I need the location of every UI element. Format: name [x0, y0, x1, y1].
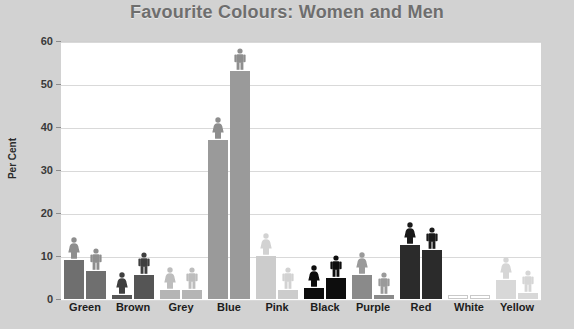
bar-holder: [230, 71, 250, 299]
bar-group-white: [445, 41, 493, 299]
man-figure-icon: [522, 270, 534, 292]
bar-purple-men[interactable]: [374, 41, 394, 299]
bar-holder: [400, 245, 420, 299]
bar-rect: [400, 245, 420, 299]
bar-rect: [448, 295, 468, 299]
bar-red-women[interactable]: [400, 41, 420, 299]
x-tick-label-brown: Brown: [109, 301, 157, 313]
woman-figure-icon: [116, 272, 129, 294]
y-tick-label-40: 40: [41, 121, 53, 133]
bar-black-women[interactable]: [304, 41, 324, 299]
bar-rect: [134, 275, 154, 299]
woman-figure-icon: [356, 252, 369, 274]
man-figure-icon: [378, 272, 390, 294]
man-figure-icon: [90, 248, 102, 270]
man-figure-icon: [474, 272, 486, 294]
bar-rect: [422, 250, 442, 299]
bar-group-pink: [253, 41, 301, 299]
x-tick-label-red: Red: [397, 301, 445, 313]
y-axis: Per Cent 0102030405060: [0, 41, 61, 299]
bar-rect: [326, 278, 346, 300]
y-tick-label-20: 20: [41, 207, 53, 219]
bar-holder: [86, 271, 106, 299]
man-figure-icon: [330, 255, 342, 277]
y-tick-label-30: 30: [41, 164, 53, 176]
bar-holder: [352, 275, 372, 299]
bar-grey-women[interactable]: [160, 41, 180, 299]
bar-yellow-men[interactable]: [518, 41, 538, 299]
woman-figure-icon: [68, 237, 81, 259]
x-tick-label-green: Green: [61, 301, 109, 313]
bar-group-black: [301, 41, 349, 299]
bar-rect: [160, 290, 180, 299]
woman-figure-icon: [452, 272, 465, 294]
bar-white-men[interactable]: [470, 41, 490, 299]
bar-green-men[interactable]: [86, 41, 106, 299]
bar-group-red: [397, 41, 445, 299]
bar-rect: [230, 71, 250, 299]
bar-rect: [112, 295, 132, 299]
bar-rect: [352, 275, 372, 299]
bar-group-brown: [109, 41, 157, 299]
bar-pink-men[interactable]: [278, 41, 298, 299]
bar-holder: [64, 260, 84, 299]
bar-holder: [304, 288, 324, 299]
bar-brown-women[interactable]: [112, 41, 132, 299]
man-figure-icon: [234, 48, 246, 70]
bar-rect: [278, 290, 298, 299]
bar-purple-women[interactable]: [352, 41, 372, 299]
woman-figure-icon: [260, 233, 273, 255]
bar-blue-men[interactable]: [230, 41, 250, 299]
x-axis-labels: GreenBrownGreyBluePinkBlackPurpleRedWhit…: [61, 301, 541, 313]
bar-holder: [278, 290, 298, 299]
bar-holder: [374, 295, 394, 299]
y-tick-label-0: 0: [47, 293, 53, 305]
bar-green-women[interactable]: [64, 41, 84, 299]
woman-figure-icon: [404, 222, 417, 244]
bar-rect: [64, 260, 84, 299]
bar-holder: [448, 295, 468, 299]
woman-figure-icon: [308, 265, 321, 287]
y-tick-label-50: 50: [41, 78, 53, 90]
bar-holder: [470, 295, 490, 299]
bar-red-men[interactable]: [422, 41, 442, 299]
x-tick-label-yellow: Yellow: [493, 301, 541, 313]
bar-blue-women[interactable]: [208, 41, 228, 299]
x-tick-label-black: Black: [301, 301, 349, 313]
woman-figure-icon: [500, 257, 513, 279]
x-tick-label-purple: Purple: [349, 301, 397, 313]
bar-rect: [86, 271, 106, 299]
bar-rect: [496, 280, 516, 299]
bar-rect: [470, 295, 490, 299]
bar-yellow-women[interactable]: [496, 41, 516, 299]
x-tick-label-blue: Blue: [205, 301, 253, 313]
bar-group-purple: [349, 41, 397, 299]
bar-brown-men[interactable]: [134, 41, 154, 299]
man-figure-icon: [426, 227, 438, 249]
bar-holder: [182, 290, 202, 299]
man-figure-icon: [138, 252, 150, 274]
y-tick-label-60: 60: [41, 35, 53, 47]
bar-rect: [208, 140, 228, 299]
bar-white-women[interactable]: [448, 41, 468, 299]
woman-figure-icon: [164, 267, 177, 289]
bar-holder: [256, 256, 276, 299]
bar-grey-men[interactable]: [182, 41, 202, 299]
bar-holder: [326, 278, 346, 300]
x-tick-label-white: White: [445, 301, 493, 313]
y-axis-title: Per Cent: [7, 119, 18, 199]
bar-groups: [61, 41, 541, 299]
bar-pink-women[interactable]: [256, 41, 276, 299]
bar-holder: [112, 295, 132, 299]
bar-holder: [422, 250, 442, 299]
bar-holder: [496, 280, 516, 299]
bar-holder: [160, 290, 180, 299]
bar-black-men[interactable]: [326, 41, 346, 299]
y-tick-label-10: 10: [41, 250, 53, 262]
bar-rect: [304, 288, 324, 299]
bar-group-blue: [205, 41, 253, 299]
woman-figure-icon: [212, 117, 225, 139]
chart-container: Favourite Colours: Women and Men Per Cen…: [0, 0, 574, 329]
chart-title: Favourite Colours: Women and Men: [0, 2, 574, 23]
man-figure-icon: [282, 267, 294, 289]
